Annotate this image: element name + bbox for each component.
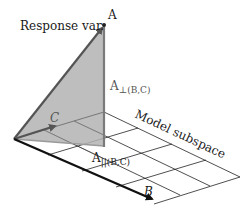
label-response-var: Response var. — [20, 19, 104, 33]
label-a-par-sub: ||(B,C) — [101, 157, 130, 168]
label-vector-c: C — [50, 111, 59, 125]
label-a-parallel: A||(B,C) — [91, 151, 130, 168]
label-a-perp-sub: ⊥(B,C) — [119, 85, 151, 95]
grid-right-edge — [154, 177, 240, 204]
label-point-a: A — [107, 8, 117, 22]
label-model-subspace: Model subspace — [133, 107, 228, 161]
label-vector-b: B — [143, 185, 153, 199]
label-a-perp-main: A — [109, 79, 119, 93]
label-a-perp: A⊥(B,C) — [109, 79, 151, 95]
vector-projection-diagram: Response var. A A⊥(B,C) A||(B,C) Model s… — [0, 0, 251, 222]
label-a-par-main: A — [91, 151, 101, 165]
